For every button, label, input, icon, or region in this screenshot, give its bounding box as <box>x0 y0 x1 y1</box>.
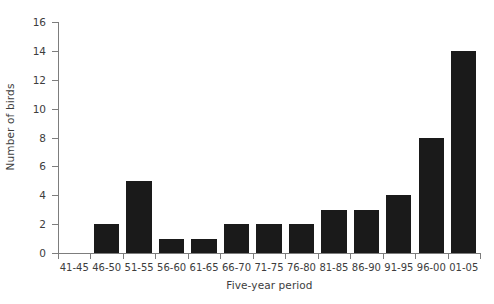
x-axis-title: Five-year period <box>58 279 481 291</box>
bar <box>159 239 184 253</box>
y-axis-tick-label: 10 <box>0 103 46 115</box>
bar <box>321 210 346 253</box>
x-axis-tick-label: 76-80 <box>287 262 316 273</box>
y-axis-tick-label: 0 <box>0 247 46 259</box>
x-axis-tick <box>480 254 481 259</box>
x-axis-tick-label: 51-55 <box>125 262 154 273</box>
bar <box>256 224 281 253</box>
bar <box>419 138 444 254</box>
y-axis-tick-label: 16 <box>0 16 46 28</box>
y-axis-tick-label: 6 <box>0 160 46 172</box>
bar-chart: Number of birds 0246810121416 41-4546-50… <box>0 0 494 304</box>
x-axis-tick-label: 86-90 <box>352 262 381 273</box>
bar <box>289 224 314 253</box>
y-axis-tick-label: 14 <box>0 45 46 57</box>
x-axis-tick <box>415 254 416 259</box>
x-axis-line <box>58 253 481 254</box>
x-axis-tick <box>253 254 254 259</box>
x-axis-tick-label: 66-70 <box>222 262 251 273</box>
x-axis-tick-label: 41-45 <box>60 262 89 273</box>
y-axis-title: Number of birds <box>0 0 20 253</box>
x-axis-tick <box>58 254 59 259</box>
x-axis-tick <box>448 254 449 259</box>
x-axis-tick-label: 46-50 <box>92 262 121 273</box>
bar <box>94 224 119 253</box>
bar <box>191 239 216 253</box>
y-axis-tick-label: 4 <box>0 189 46 201</box>
bar <box>126 181 151 253</box>
bar <box>451 51 476 253</box>
x-axis-tick-label: 96-00 <box>417 262 446 273</box>
x-axis-tick-label: 01-05 <box>449 262 478 273</box>
y-axis-title-label: Number of birds <box>4 83 16 170</box>
x-axis-tick-label: 71-75 <box>254 262 283 273</box>
plot-area <box>58 22 480 253</box>
x-axis-tick-label: 81-85 <box>319 262 348 273</box>
bar <box>386 195 411 253</box>
x-axis-tick <box>123 254 124 259</box>
x-axis-tick <box>350 254 351 259</box>
x-axis-tick-label: 56-60 <box>157 262 186 273</box>
y-axis-tick-label: 12 <box>0 74 46 86</box>
x-axis-tick <box>318 254 319 259</box>
y-axis-tick-label: 8 <box>0 132 46 144</box>
x-axis-tick <box>383 254 384 259</box>
bar <box>354 210 379 253</box>
x-axis-tick <box>155 254 156 259</box>
y-axis-tick-label: 2 <box>0 218 46 230</box>
x-axis-tick <box>285 254 286 259</box>
x-axis-tick <box>188 254 189 259</box>
x-axis-tick-label: 61-65 <box>190 262 219 273</box>
x-axis-tick <box>220 254 221 259</box>
x-axis-tick-label: 91-95 <box>384 262 413 273</box>
x-axis-tick <box>90 254 91 259</box>
bar <box>224 224 249 253</box>
